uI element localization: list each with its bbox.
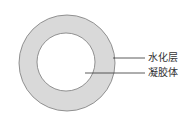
gel-core-circle: [37, 33, 95, 91]
label-hydration-layer: 水化层: [148, 52, 178, 64]
label-gel: 凝胶体: [148, 67, 178, 79]
